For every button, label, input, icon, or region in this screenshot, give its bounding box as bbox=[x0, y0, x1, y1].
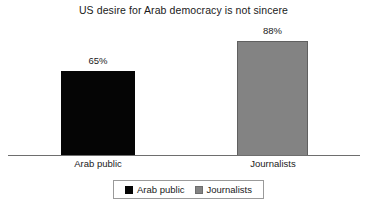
legend-label-arab-public: Arab public bbox=[137, 184, 185, 195]
x-axis-label-arab-public: Arab public bbox=[46, 158, 150, 170]
bar-value-label-arab-public: 65% bbox=[61, 55, 135, 66]
legend-item-arab-public[interactable]: Arab public bbox=[125, 184, 185, 195]
legend-label-journalists: Journalists bbox=[207, 184, 252, 195]
bar-arab-public[interactable] bbox=[61, 71, 135, 156]
bar-value-label-journalists: 88% bbox=[237, 25, 308, 36]
bar-journalists[interactable] bbox=[237, 41, 308, 156]
legend-swatch-icon-journalists bbox=[195, 186, 203, 194]
legend-swatch-icon-arab-public bbox=[125, 186, 133, 194]
bar-chart: US desire for Arab democracy is not sinc… bbox=[0, 0, 367, 210]
chart-title: US desire for Arab democracy is not sinc… bbox=[0, 4, 367, 16]
chart-legend: Arab public Journalists bbox=[113, 180, 264, 199]
plot-area: 65% 88% bbox=[0, 20, 367, 156]
x-axis-label-journalists: Journalists bbox=[221, 158, 325, 170]
legend-item-journalists[interactable]: Journalists bbox=[195, 184, 252, 195]
x-axis-line bbox=[8, 155, 360, 156]
